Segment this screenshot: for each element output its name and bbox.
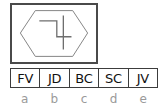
code-box-label: SC: [105, 72, 122, 85]
code-box-e[interactable]: JV: [128, 68, 158, 88]
code-box-row: FV JD BC SC JV: [10, 68, 158, 88]
caption-c: c: [69, 90, 99, 108]
caption-b: b: [40, 90, 70, 108]
code-box-c[interactable]: BC: [69, 68, 99, 88]
caption-a: a: [10, 90, 40, 108]
caption-row: a b c d e: [10, 90, 158, 108]
code-box-label: JV: [137, 72, 149, 85]
four-like-glyph-stroke: [40, 21, 71, 37]
code-box-d[interactable]: SC: [98, 68, 128, 88]
glyph-drawing: [12, 5, 96, 62]
code-box-label: BC: [75, 72, 92, 85]
caption-label: b: [51, 93, 59, 105]
code-box-label: JD: [48, 72, 61, 85]
code-box-b[interactable]: JD: [39, 68, 69, 88]
caption-label: d: [110, 93, 118, 105]
code-box-label: FV: [17, 72, 33, 85]
caption-d: d: [99, 90, 129, 108]
glyph-panel: [10, 3, 98, 64]
caption-label: a: [21, 93, 28, 105]
caption-label: e: [139, 93, 146, 105]
caption-e: e: [128, 90, 158, 108]
caption-label: c: [81, 93, 88, 105]
hexagon-outline: [20, 11, 87, 57]
code-box-a[interactable]: FV: [10, 68, 40, 88]
